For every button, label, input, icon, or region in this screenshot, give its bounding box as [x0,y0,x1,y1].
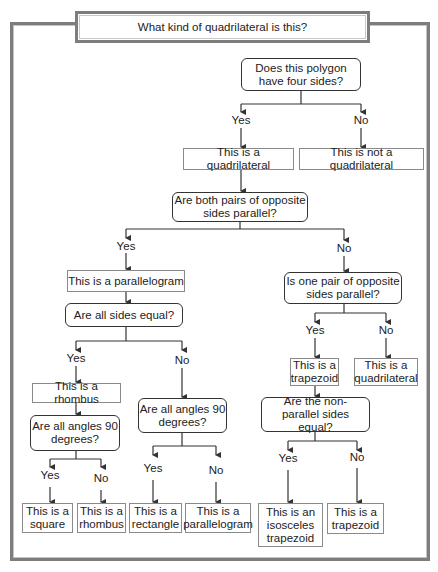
leaf-trapezoid: This is a trapezoid [327,503,384,534]
result-trapezoid: This is a trapezoid [290,358,339,386]
leaf-rhombus: This is a rhombus [77,503,126,533]
label-no: No [379,324,394,336]
label-yes: Yes [67,352,86,364]
label-no: No [209,464,224,476]
label-no: No [175,354,190,366]
question-one-pair-parallel: Is one pair of opposite sides parallel? [284,272,402,304]
leaf-parallelogram: This is a parallelogram [185,503,251,533]
label-yes: Yes [232,114,251,126]
leaf-rectangle: This is a rectangle [129,503,182,533]
question-both-pairs-parallel: Are both pairs of opposite sides paralle… [172,192,308,222]
question-nonparallel-equal: Are the non-parallel sides equal? [261,397,370,432]
question-four-sides: Does this polygon have four sides? [241,58,361,91]
label-no: No [337,242,352,254]
label-yes: Yes [306,324,325,336]
question-all-sides-equal: Are all sides equal? [65,303,183,327]
result-not-quadrilateral: This is not a quadrilateral [299,148,424,170]
result-rhombus: This is a rhombus [32,383,121,403]
label-yes: Yes [279,452,298,464]
label-no: No [94,472,109,484]
label-yes: Yes [144,462,163,474]
leaf-isosceles-trapezoid: This is an isosceles trapezoid [258,503,323,547]
result-quadrilateral: This is a quadrilateral [183,148,294,170]
result-quadrilateral-2: This is a quadrilateral [354,358,418,386]
result-parallelogram: This is a parallelogram [67,270,185,292]
question-angles-90-right: Are all angles 90 degrees? [138,398,227,433]
label-yes: Yes [41,469,60,481]
label-yes: Yes [117,240,136,252]
question-angles-90-left: Are all angles 90 degrees? [30,415,120,451]
leaf-square: This is a square [22,503,73,533]
label-no: No [350,451,365,463]
label-no: No [354,114,369,126]
